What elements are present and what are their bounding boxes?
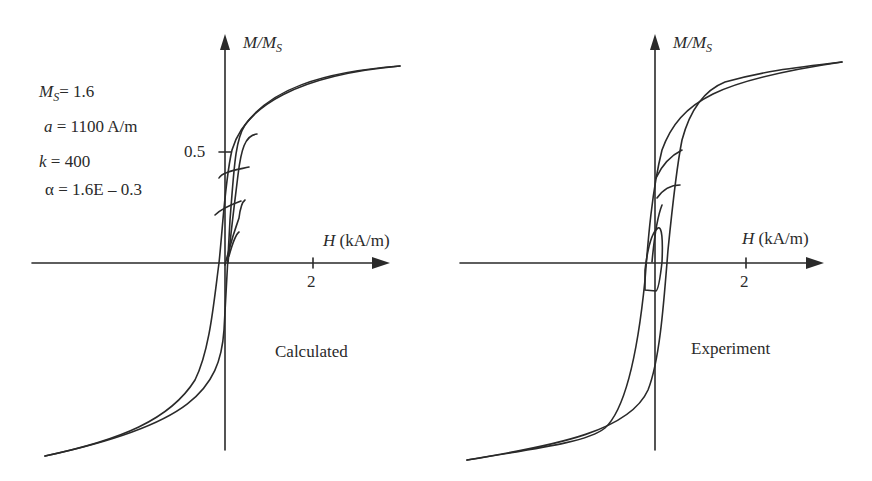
right-axes xyxy=(460,48,808,450)
left-y-tick-label: 0.5 xyxy=(184,142,205,162)
left-y-axis-label: M/MS xyxy=(243,33,282,53)
param-alpha: α = 1.6E – 0.3 xyxy=(45,180,142,200)
left-caption: Calculated xyxy=(275,342,348,362)
left-x-tick-label: 2 xyxy=(307,272,316,292)
left-y-arrow xyxy=(220,34,230,50)
right-caption: Experiment xyxy=(691,339,770,359)
left-x-arrow xyxy=(372,257,390,269)
right-y-arrow xyxy=(650,34,660,50)
param-a: a = 1100 A/m xyxy=(44,117,138,137)
right-x-arrow xyxy=(806,257,824,269)
param-k: k = 400 xyxy=(39,152,90,172)
right-x-axis-label: H (kA/m) xyxy=(742,229,809,249)
right-x-tick-label: 2 xyxy=(740,272,749,292)
right-y-axis-label: M/MS xyxy=(673,33,712,53)
param-ms: MS= 1.6 xyxy=(39,82,94,102)
left-x-axis-label: H (kA/m) xyxy=(323,231,390,251)
